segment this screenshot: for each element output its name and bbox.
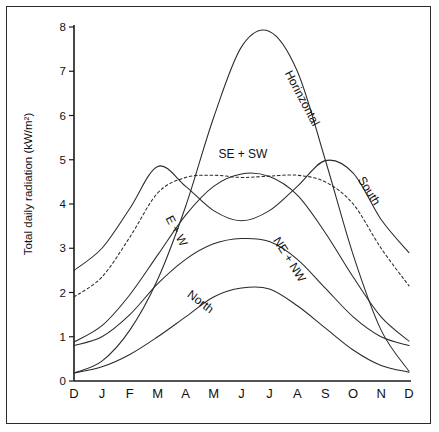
figure-container: 012345678Total daily radiation (kW/m²)DJ… bbox=[0, 0, 439, 432]
series-curve-south bbox=[74, 160, 409, 270]
x-axis-tick-label: A bbox=[181, 386, 190, 401]
x-axis-tick-label: A bbox=[293, 386, 302, 401]
x-axis-tick-label: J bbox=[238, 386, 245, 401]
y-axis-tick-label: 8 bbox=[60, 21, 66, 33]
series-label-se-sw: SE + SW bbox=[218, 147, 268, 161]
y-axis-tick-label: 6 bbox=[60, 110, 66, 122]
x-axis-tick-label: M bbox=[152, 386, 163, 401]
x-axis-tick-label: M bbox=[208, 386, 219, 401]
series-label-north: North bbox=[185, 287, 217, 316]
y-axis-tick-label: 3 bbox=[60, 242, 66, 254]
series-curve-ne-nw bbox=[74, 238, 409, 345]
x-axis-tick-label: J bbox=[99, 386, 106, 401]
series-label-e-w: E + W bbox=[163, 213, 191, 249]
series-label-ne-nw: NE + NW bbox=[270, 234, 309, 285]
radiation-line-chart: 012345678Total daily radiation (kW/m²)DJ… bbox=[0, 0, 439, 432]
y-axis-tick-label: 0 bbox=[60, 375, 66, 387]
y-axis-title: Total daily radiation (kW/m²) bbox=[22, 113, 34, 256]
series-label-horinzontal: Horinzontal bbox=[282, 68, 323, 128]
x-axis-tick-label: O bbox=[348, 386, 358, 401]
x-axis-tick-label: D bbox=[69, 386, 78, 401]
y-axis-tick-label: 4 bbox=[60, 198, 67, 210]
series-label-south: South bbox=[355, 174, 383, 208]
x-axis-tick-label: S bbox=[321, 386, 330, 401]
y-axis-tick-label: 7 bbox=[60, 65, 66, 77]
x-axis-tick-label: N bbox=[376, 386, 385, 401]
y-axis-tick-label: 2 bbox=[60, 287, 66, 299]
y-axis-tick-label: 5 bbox=[60, 154, 66, 166]
x-axis-tick-label: F bbox=[126, 386, 134, 401]
x-axis-tick-label: D bbox=[404, 386, 413, 401]
series-curve-se-sw bbox=[74, 175, 409, 297]
x-axis-tick-label: J bbox=[266, 386, 273, 401]
series-curve-north bbox=[74, 287, 409, 373]
series-curve-e-w bbox=[74, 173, 409, 342]
y-axis-tick-label: 1 bbox=[60, 331, 66, 343]
